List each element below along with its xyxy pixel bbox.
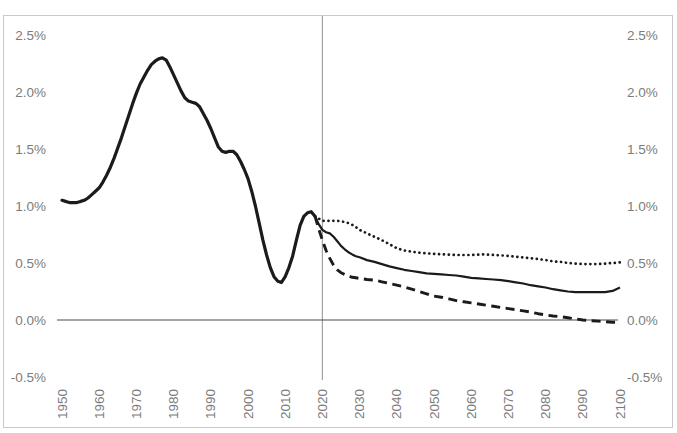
y-axis-tick-label-left: 0.0%: [15, 313, 46, 328]
population-growth-rate-chart: 2.5%2.5%2.0%2.0%1.5%1.5%1.0%1.0%0.5%0.5%…: [0, 0, 677, 433]
series-projection-low-variant-line: [315, 216, 620, 322]
y-axis-tick-label-left: 2.5%: [15, 28, 46, 43]
y-axis-tick-label-right: 1.5%: [627, 142, 658, 157]
y-axis-tick-label-left: 1.0%: [15, 199, 46, 214]
y-axis-tick-label-right: 1.0%: [627, 199, 658, 214]
x-axis-tick-label: 1980: [166, 389, 181, 419]
x-axis-tick-label: 2020: [315, 389, 330, 419]
x-axis-tick-label: 2080: [538, 389, 553, 419]
x-axis-tick-label: 2100: [613, 389, 628, 419]
y-axis-tick-label-left: 0.5%: [15, 256, 46, 271]
x-axis-tick-label: 2010: [278, 389, 293, 419]
y-axis-tick-label-right: 2.5%: [627, 28, 658, 43]
x-axis-tick-label: 2060: [464, 389, 479, 419]
x-axis-tick-label: 2000: [241, 389, 256, 419]
x-axis-tick-label: 1950: [55, 389, 70, 419]
y-axis-tick-label-right: 0.0%: [627, 313, 658, 328]
series-estimates-1950-2018-line: [62, 58, 315, 283]
x-axis-tick-label: 1960: [92, 389, 107, 419]
x-axis-tick-label: 2070: [501, 389, 516, 419]
y-axis-tick-label-right: 0.5%: [627, 256, 658, 271]
line-chart-canvas: 2.5%2.5%2.0%2.0%1.5%1.5%1.0%1.0%0.5%0.5%…: [0, 0, 677, 433]
y-axis-tick-label-right: 2.0%: [627, 85, 658, 100]
y-axis-tick-label-left: 1.5%: [15, 142, 46, 157]
x-axis-tick-label: 2050: [427, 389, 442, 419]
x-axis-tick-label: 1990: [203, 389, 218, 419]
x-axis-tick-label: 2030: [352, 389, 367, 419]
x-axis-tick-label: 1970: [129, 389, 144, 419]
y-axis-tick-label-right: -0.5%: [627, 370, 662, 385]
y-axis-tick-label-left: 2.0%: [15, 85, 46, 100]
x-axis-tick-label: 2040: [389, 389, 404, 419]
y-axis-tick-label-left: -0.5%: [11, 370, 46, 385]
x-axis-tick-label: 2090: [575, 389, 590, 419]
